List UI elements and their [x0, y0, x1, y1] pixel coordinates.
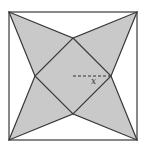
segment-label-x: x	[91, 76, 96, 86]
geometry-figure: x	[0, 0, 147, 152]
